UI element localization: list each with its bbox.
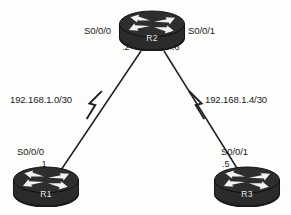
- router-devices: [13, 11, 279, 207]
- diagram-canvas: [0, 0, 291, 215]
- address-label-r1: .1: [39, 160, 46, 169]
- router-icon-r3[interactable]: [214, 167, 279, 207]
- network-topology-diagram: R2 R1 R3 S0/0/0 S0/0/1 .2 .6 192.168.1.0…: [0, 0, 291, 215]
- link-lines: [59, 51, 240, 173]
- interface-label-r2-s001: S0/0/1: [188, 26, 215, 36]
- router-icon-r1[interactable]: [13, 167, 78, 207]
- network-label-right: 192.168.1.4/30: [205, 95, 267, 105]
- interface-label-r3-s001: S0/0/1: [221, 147, 248, 157]
- address-label-r3: .5: [222, 160, 229, 169]
- interface-label-r1-s000: S0/0/0: [17, 147, 44, 157]
- address-label-r2-left: .2: [122, 43, 129, 52]
- network-label-left: 192.168.1.0/30: [10, 95, 72, 105]
- link-line-r1-r2: [59, 51, 141, 173]
- address-label-r2-right: .6: [172, 43, 179, 52]
- interface-label-r2-s000: S0/0/0: [84, 26, 111, 36]
